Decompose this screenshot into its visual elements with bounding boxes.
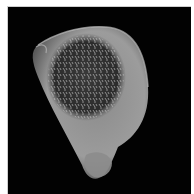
micrograph-frame xyxy=(7,6,191,194)
specimen-image xyxy=(8,7,191,194)
